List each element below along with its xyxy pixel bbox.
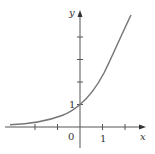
- x-axis-arrow-icon: [139, 125, 146, 130]
- y-tick-label-1: 1: [69, 99, 75, 110]
- x-tick-label-1: 1: [100, 133, 106, 144]
- y-axis-label: y: [68, 7, 75, 18]
- exponential-graph: y x 0 1 1: [0, 0, 155, 154]
- x-axis-label: x: [140, 131, 146, 142]
- y-axis-arrow-icon: [78, 10, 83, 17]
- origin-label: 0: [68, 131, 74, 142]
